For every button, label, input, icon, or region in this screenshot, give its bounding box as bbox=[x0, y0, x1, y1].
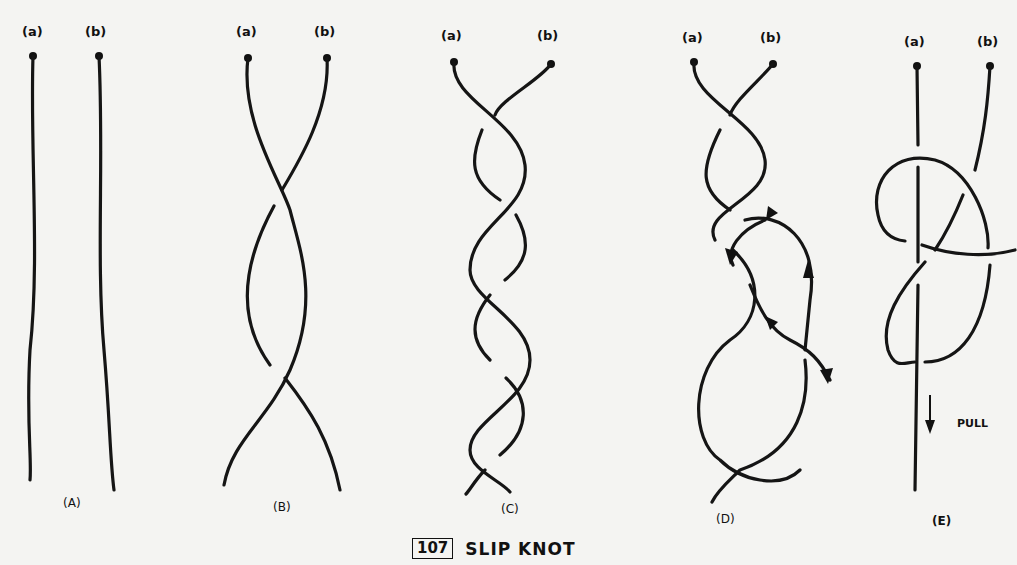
knot-diagram bbox=[0, 0, 1017, 565]
panel-label-a: (A) bbox=[63, 496, 81, 510]
panel-label-e: (E) bbox=[932, 514, 951, 528]
panel-label-d: (D) bbox=[716, 512, 735, 526]
end-label-a: (a) bbox=[236, 24, 257, 39]
pull-label: PULL bbox=[957, 417, 988, 430]
panel-a-strands bbox=[29, 52, 114, 490]
end-label-b: (b) bbox=[977, 34, 998, 49]
end-label-b: (b) bbox=[85, 24, 106, 39]
end-label-a: (a) bbox=[441, 28, 462, 43]
panel-b-strands bbox=[224, 54, 340, 490]
panel-c-strands bbox=[450, 58, 555, 494]
end-label-a: (a) bbox=[682, 30, 703, 45]
panel-d-strands bbox=[690, 58, 833, 502]
end-label-a: (a) bbox=[904, 34, 925, 49]
end-label-a: (a) bbox=[22, 24, 43, 39]
figure-number: 107 bbox=[412, 538, 453, 559]
panel-e-strands bbox=[877, 62, 1015, 490]
figure-caption: 107 SLIP KNOT bbox=[412, 538, 576, 559]
end-label-b: (b) bbox=[314, 24, 335, 39]
end-label-b: (b) bbox=[537, 28, 558, 43]
panel-label-c: (C) bbox=[501, 502, 519, 516]
figure-title: SLIP KNOT bbox=[465, 539, 575, 559]
end-label-b: (b) bbox=[760, 30, 781, 45]
panel-label-b: (B) bbox=[273, 500, 291, 514]
